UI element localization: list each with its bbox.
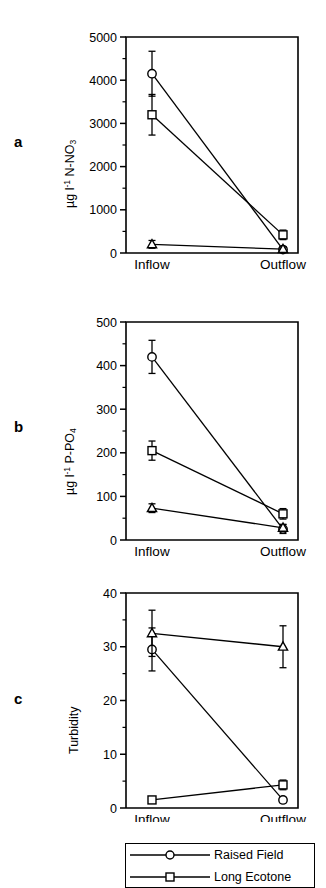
panel-c: c Turbidity 010203040InflowOutflow xyxy=(0,582,326,822)
data-point-marker xyxy=(147,503,156,511)
y-tick-label: 40 xyxy=(103,587,117,601)
y-tick-label: 20 xyxy=(103,694,117,708)
x-category-label: Inflow xyxy=(134,257,170,272)
data-point-marker xyxy=(279,796,287,804)
y-tick-label: 10 xyxy=(103,748,117,762)
data-point-marker xyxy=(147,629,156,637)
legend-symbol-circle-icon xyxy=(126,844,214,866)
y-tick-label: 5000 xyxy=(89,31,117,45)
y-tick-label: 300 xyxy=(96,403,117,417)
series-line xyxy=(152,633,283,646)
series-line xyxy=(152,451,283,514)
y-tick-label: 30 xyxy=(103,640,117,654)
data-point-marker xyxy=(148,796,156,804)
series-line xyxy=(152,785,283,800)
y-tick-label: 3000 xyxy=(89,117,117,131)
x-category-label: Inflow xyxy=(134,812,170,822)
x-category-label: Outflow xyxy=(260,257,306,272)
legend-entry-raised-field: Raised Field xyxy=(126,844,314,866)
legend-label-long-ecotone: Long Ecotone xyxy=(214,870,291,884)
series-line xyxy=(152,508,283,528)
data-point-marker xyxy=(148,111,156,119)
y-tick-label: 200 xyxy=(96,446,117,460)
series-line xyxy=(152,74,283,250)
y-tick-label: 500 xyxy=(96,316,117,330)
y-tick-label: 100 xyxy=(96,490,117,504)
data-point-marker xyxy=(279,231,287,239)
y-tick-label: 1000 xyxy=(89,203,117,217)
y-tick-label: 4000 xyxy=(89,74,117,88)
legend-label-raised-field: Raised Field xyxy=(214,848,283,862)
y-tick-label: 400 xyxy=(96,359,117,373)
data-point-marker xyxy=(148,353,156,361)
legend-entry-long-ecotone: Long Ecotone xyxy=(126,866,314,888)
data-point-marker xyxy=(148,70,156,78)
data-point-marker xyxy=(148,447,156,455)
x-category-label: Inflow xyxy=(134,544,170,559)
plot-area-b: 0100200300400500InflowOutflow xyxy=(0,290,326,582)
y-tick-label: 0 xyxy=(110,247,117,261)
panel-b: b µg l-1 P-PO4 0100200300400500InflowOut… xyxy=(0,290,326,582)
plot-area-a: 010002000300040005000InflowOutflow xyxy=(0,0,326,290)
y-tick-label: 2000 xyxy=(89,160,117,174)
series-line xyxy=(152,115,283,235)
y-tick-label: 0 xyxy=(110,802,117,816)
series-line xyxy=(152,244,283,249)
legend-symbol-square-icon xyxy=(126,866,214,888)
data-point-marker xyxy=(279,510,287,518)
series-line xyxy=(152,649,283,800)
legend: Raised Field Long Ecotone xyxy=(125,843,315,888)
plot-area-c: 010203040InflowOutflow xyxy=(0,582,326,822)
y-tick-label: 0 xyxy=(110,534,117,548)
data-point-marker xyxy=(279,781,287,789)
series-line xyxy=(152,357,283,529)
panel-a: a µg l-1 N-NO3 010002000300040005000Infl… xyxy=(0,0,326,290)
x-category-label: Outflow xyxy=(260,544,306,559)
x-category-label: Outflow xyxy=(260,812,306,822)
